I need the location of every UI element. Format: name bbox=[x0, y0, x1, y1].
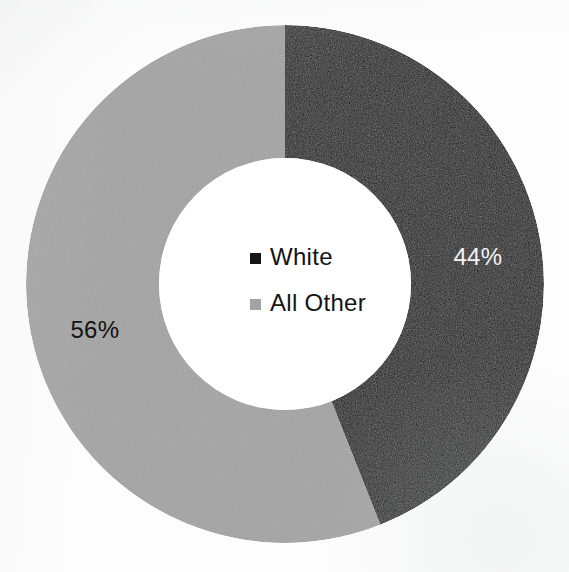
slice-label-all-other: 56% bbox=[70, 316, 119, 344]
square-marker-icon bbox=[250, 299, 261, 310]
legend-label-all-other: All Other bbox=[270, 289, 366, 317]
square-marker-icon bbox=[250, 253, 261, 264]
legend-item-all-other: All Other bbox=[250, 289, 366, 317]
slice-label-white: 44% bbox=[453, 243, 502, 271]
chart-legend: White All Other bbox=[250, 243, 366, 317]
legend-label-white: White bbox=[270, 243, 333, 271]
legend-item-white: White bbox=[250, 243, 366, 271]
donut-chart: 44% 56% White All Other bbox=[0, 0, 569, 572]
